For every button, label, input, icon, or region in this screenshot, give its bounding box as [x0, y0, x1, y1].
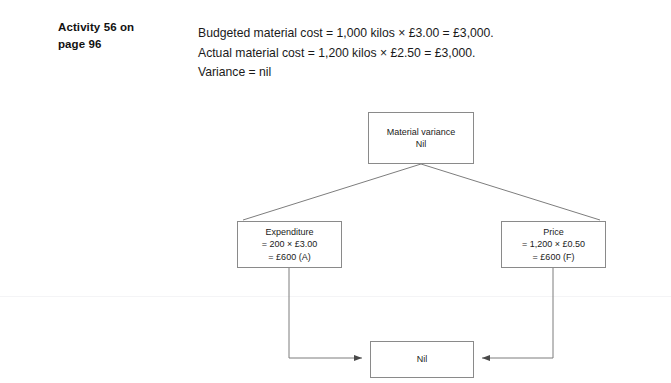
node-expenditure: Expenditure = 200 × £3.00 = £600 (A)	[237, 221, 342, 268]
node-price-line-2: = 1,200 × £0.50	[522, 238, 585, 251]
node-price-line-1: Price	[543, 226, 564, 239]
connector-variance-to-expenditure	[243, 164, 421, 220]
node-material-variance: Material variance Nil	[368, 112, 474, 164]
connector-price-to-nil	[482, 268, 553, 358]
diagram-connectors	[0, 0, 671, 383]
node-price-line-3: = £600 (F)	[533, 251, 575, 264]
node-expenditure-line-1: Expenditure	[265, 226, 313, 239]
connector-expenditure-to-nil	[289, 268, 362, 358]
node-total-nil-line-1: Nil	[417, 353, 428, 366]
node-total-nil: Nil	[370, 341, 474, 378]
node-material-variance-line-2: Nil	[416, 138, 427, 151]
node-price: Price = 1,200 × £0.50 = £600 (F)	[501, 221, 606, 268]
node-expenditure-line-3: = £600 (A)	[268, 251, 310, 264]
node-material-variance-line-1: Material variance	[387, 126, 456, 139]
node-expenditure-line-2: = 200 × £3.00	[262, 238, 318, 251]
connector-variance-to-price	[421, 164, 600, 220]
